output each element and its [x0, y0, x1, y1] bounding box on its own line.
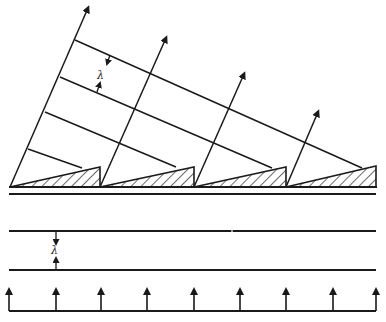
diffracted-ray-arrow — [286, 112, 318, 187]
grating-tooth — [194, 167, 286, 187]
grating-baseline — [9, 187, 377, 194]
diffracted-ray-arrow — [194, 74, 244, 187]
wavefront-line — [28, 149, 82, 168]
diffracted-ray-arrow — [100, 38, 166, 187]
top-panel — [9, 8, 377, 194]
wavefront-line — [75, 40, 362, 168]
wavefront-lines — [28, 40, 362, 168]
incident-rays — [9, 290, 376, 311]
diagram-canvas — [0, 0, 386, 322]
diffracted-rays — [10, 8, 318, 187]
wavelength-arrow-up — [97, 83, 100, 92]
wavefront-line — [45, 112, 176, 167]
grating-tooth — [100, 167, 194, 187]
diffracted-ray-arrow — [10, 8, 88, 187]
wavelength-arrow-down — [107, 55, 110, 64]
grating-tooth — [10, 167, 100, 187]
wavelength-label-top: λ — [97, 70, 104, 81]
wavefront-line — [60, 77, 272, 168]
wavelength-label-bottom: λ — [51, 245, 58, 256]
grating-tooth — [286, 166, 376, 187]
grating-teeth — [10, 166, 376, 187]
plane-wavefronts — [9, 229, 376, 270]
bottom-panel — [9, 229, 376, 311]
